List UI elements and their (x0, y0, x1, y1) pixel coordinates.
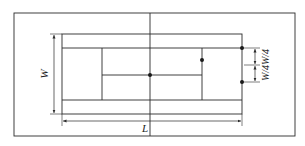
quarter-width-label: W/4W/4 (260, 49, 271, 81)
outer-frame (14, 13, 295, 136)
tennis-court-diagram: W L W/4W/4 (0, 0, 305, 146)
baseline-mid-point (240, 80, 244, 84)
service-line-point (200, 58, 204, 62)
width-label: W (38, 69, 50, 79)
baseline-top-point (240, 46, 244, 50)
length-label: L (141, 122, 148, 134)
center-point (148, 73, 152, 77)
court-outline (62, 34, 242, 114)
